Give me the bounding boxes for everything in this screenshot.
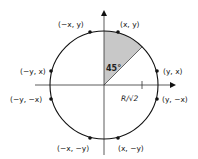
label-negx-y: (−x, y) — [58, 20, 84, 29]
point-negy-negx — [49, 97, 53, 101]
y-axis-arrow-icon — [101, 10, 107, 16]
point-y-x — [155, 69, 159, 73]
label-negy-negx: (−y, −x) — [10, 95, 42, 104]
radius-tick-label: R/√2 — [121, 94, 139, 103]
point-negy-x — [49, 69, 53, 73]
label-negy-x: (−y, x) — [20, 67, 46, 76]
x-axis-arrow-icon — [170, 82, 176, 88]
shaded-sector — [104, 31, 142, 85]
label-y-x: (y, x) — [163, 67, 183, 76]
angle-label: 45° — [106, 64, 121, 73]
point-negx-y — [88, 30, 92, 34]
point-y-negx — [155, 97, 159, 101]
label-x-y: (x, y) — [120, 20, 140, 29]
point-negx-negy — [88, 136, 92, 140]
label-x-negy: (x, −y) — [118, 144, 144, 153]
label-y-negx: (y, −x) — [162, 95, 188, 104]
unit-circle-diagram: (x, y) (−x, y) (y, x) (−y, x) (y, −x) (−… — [0, 0, 198, 159]
label-negx-negy: (−x, −y) — [57, 144, 89, 153]
point-x-y — [116, 30, 120, 34]
point-x-negy — [116, 136, 120, 140]
